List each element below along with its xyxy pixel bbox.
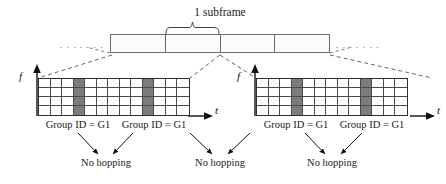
resource-cell [349, 106, 361, 115]
subframe-brace-icon [165, 21, 220, 34]
resource-cell [303, 106, 315, 115]
group-caption-right-1: Group ID = G1 [258, 119, 334, 130]
resource-cell [120, 88, 132, 97]
resource-cell [51, 106, 63, 115]
resource-cell [62, 106, 74, 115]
resource-cell [108, 106, 120, 115]
resource-cell [395, 106, 407, 115]
resource-cell [338, 79, 350, 88]
resource-cell [62, 79, 74, 88]
subframe-label: 1 subframe [110, 6, 330, 18]
resource-cell [131, 88, 143, 97]
resource-cell-shaded [74, 79, 86, 88]
resource-cell [326, 88, 338, 97]
left-axis-f-label: f [19, 70, 22, 82]
resource-cell-shaded [361, 88, 373, 97]
resource-cell [395, 88, 407, 97]
left-axis-t-label: t [215, 104, 218, 116]
resource-cell [372, 106, 384, 115]
resource-cell-shaded [143, 88, 155, 97]
resource-cell [97, 88, 109, 97]
resource-cell [39, 79, 51, 88]
resource-cell [177, 97, 189, 106]
diagram-canvas: 1 subframe . . . . . . . . . . . . . . f [0, 0, 446, 184]
left-resource-grid [38, 78, 190, 116]
resource-cell [338, 97, 350, 106]
resource-cell-shaded [143, 79, 155, 88]
resource-cell [154, 88, 166, 97]
resource-cell-shaded [292, 79, 304, 88]
resource-cell [51, 88, 63, 97]
resource-cell [315, 106, 327, 115]
resource-cell [131, 79, 143, 88]
resource-cell [372, 97, 384, 106]
resource-cell-shaded [361, 106, 373, 115]
resource-cell [62, 97, 74, 106]
resource-cell [384, 88, 396, 97]
resource-cell-shaded [361, 79, 373, 88]
resource-cell [326, 79, 338, 88]
resource-cell [108, 88, 120, 97]
hopping-caption-3: No hopping [292, 157, 372, 168]
subframe-segment [221, 35, 276, 52]
resource-cell [131, 97, 143, 106]
resource-cell [166, 106, 178, 115]
resource-cell [97, 97, 109, 106]
resource-cell [154, 106, 166, 115]
resource-cell [315, 97, 327, 106]
resource-cell [315, 88, 327, 97]
resource-cell [39, 106, 51, 115]
ellipsis-right: . . . . . . . [336, 40, 380, 50]
resource-cell [326, 97, 338, 106]
resource-cell [257, 106, 269, 115]
resource-cell [269, 79, 281, 88]
resource-cell-shaded [143, 97, 155, 106]
resource-cell [51, 97, 63, 106]
resource-cell [39, 88, 51, 97]
resource-cell [85, 97, 97, 106]
resource-cell [395, 79, 407, 88]
resource-cell [280, 88, 292, 97]
resource-cell [177, 88, 189, 97]
right-axis-f-label: f [237, 70, 240, 82]
resource-cell [120, 79, 132, 88]
resource-cell [257, 97, 269, 106]
resource-cell [384, 97, 396, 106]
resource-cell [326, 106, 338, 115]
resource-cell [120, 97, 132, 106]
resource-cell [372, 88, 384, 97]
resource-cell [166, 79, 178, 88]
resource-cell [303, 97, 315, 106]
resource-cell [280, 97, 292, 106]
resource-cell [62, 88, 74, 97]
resource-cell [166, 97, 178, 106]
resource-cell [349, 88, 361, 97]
group-caption-left-2: Group ID = G1 [116, 119, 192, 130]
right-resource-grid [256, 78, 408, 116]
subframe-segment-highlighted [166, 35, 221, 52]
resource-cell [131, 106, 143, 115]
ellipsis-left: . . . . . . . [60, 40, 104, 50]
hopping-caption-1: No hopping [66, 157, 146, 168]
resource-cell [384, 79, 396, 88]
resource-cell [338, 88, 350, 97]
group-caption-left-1: Group ID = G1 [40, 119, 116, 130]
resource-cell [154, 97, 166, 106]
resource-cell-shaded [74, 97, 86, 106]
resource-cell [108, 97, 120, 106]
resource-cell-shaded [143, 106, 155, 115]
resource-cell-shaded [292, 97, 304, 106]
subframe-segment [275, 35, 329, 52]
hopping-caption-2: No hopping [180, 157, 260, 168]
resource-cell [85, 79, 97, 88]
resource-cell [303, 79, 315, 88]
resource-cell [257, 88, 269, 97]
resource-cell [372, 79, 384, 88]
group-caption-right-2: Group ID = G1 [334, 119, 410, 130]
resource-cell [349, 79, 361, 88]
resource-cell [384, 106, 396, 115]
resource-cell [120, 106, 132, 115]
resource-cell-shaded [74, 88, 86, 97]
subframe-segment [111, 35, 166, 52]
resource-cell [280, 79, 292, 88]
